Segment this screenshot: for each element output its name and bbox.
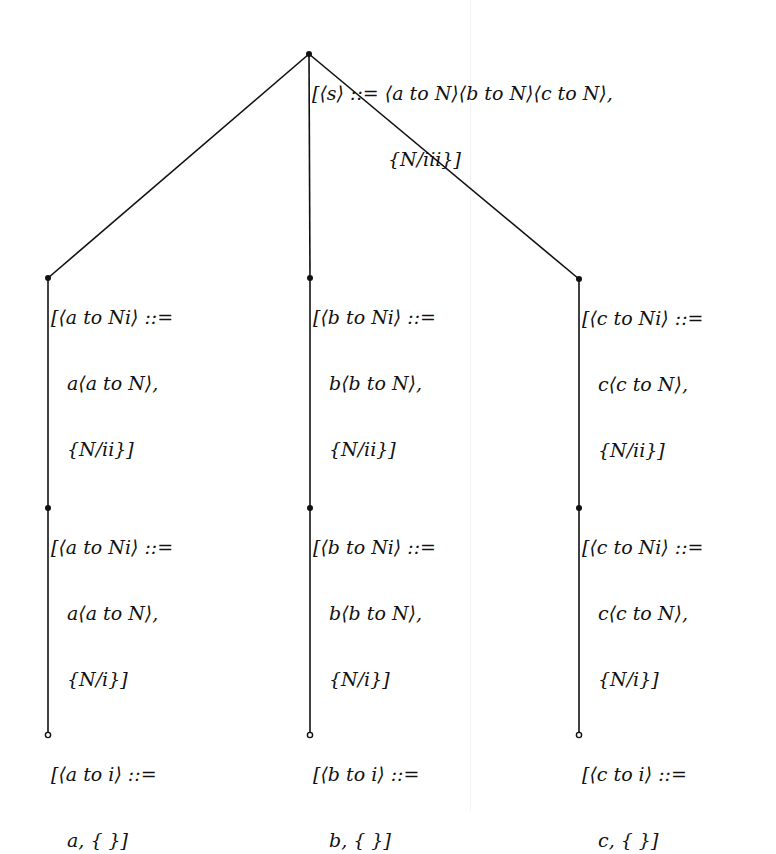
node-c-to-i-leaf: [⟨c to i⟩ ::= c, { }] bbox=[582, 719, 687, 854]
node-line: c, { }] bbox=[582, 829, 687, 851]
node-line: b⟨b to N⟩, bbox=[313, 602, 436, 624]
node-b-to-ni-ii: [⟨b to Ni⟩ ::= b⟨b to N⟩, {N/ii}] bbox=[313, 262, 436, 504]
node-line: b, { }] bbox=[313, 829, 419, 851]
node-line: {N/ii}] bbox=[313, 438, 436, 460]
node-line: a, { }] bbox=[51, 829, 157, 851]
hollow-node-dot-icon bbox=[576, 732, 581, 737]
node-c-to-ni-ii: [⟨c to Ni⟩ ::= c⟨c to N⟩, {N/ii}] bbox=[582, 263, 704, 505]
node-c-to-ni-i: [⟨c to Ni⟩ ::= c⟨c to N⟩, {N/i}] bbox=[582, 492, 704, 734]
node-b-to-i-leaf: [⟨b to i⟩ ::= b, { }] bbox=[313, 719, 419, 854]
node-line: [⟨c to Ni⟩ ::= bbox=[582, 536, 704, 558]
node-line: {N/ii}] bbox=[582, 439, 704, 461]
node-line: a⟨a to N⟩, bbox=[51, 372, 173, 394]
hollow-node-dot-icon bbox=[45, 732, 50, 737]
node-line: [⟨b to Ni⟩ ::= bbox=[313, 306, 436, 328]
tree-edge bbox=[309, 54, 310, 278]
node-line: c⟨c to N⟩, bbox=[582, 602, 704, 624]
tree-edge bbox=[48, 54, 309, 278]
hollow-node-dot-icon bbox=[307, 732, 312, 737]
node-line: {N/i}] bbox=[51, 668, 173, 690]
node-line: [⟨c to i⟩ ::= bbox=[582, 763, 687, 785]
node-line: [⟨a to Ni⟩ ::= bbox=[51, 536, 173, 558]
node-line: {N/iii}] bbox=[312, 148, 613, 170]
node-b-to-ni-i: [⟨b to Ni⟩ ::= b⟨b to N⟩, {N/i}] bbox=[313, 492, 436, 734]
node-line: a⟨a to N⟩, bbox=[51, 602, 173, 624]
node-a-to-ni-ii: [⟨a to Ni⟩ ::= a⟨a to N⟩, {N/ii}] bbox=[51, 262, 173, 504]
node-line: [⟨c to Ni⟩ ::= bbox=[582, 307, 704, 329]
node-line: {N/i}] bbox=[313, 668, 436, 690]
node-line: [⟨a to i⟩ ::= bbox=[51, 763, 157, 785]
node-line: [⟨a to Ni⟩ ::= bbox=[51, 306, 173, 328]
node-root-s-production: [⟨s⟩ ::= ⟨a to N⟩⟨b to N⟩⟨c to N⟩, {N/ii… bbox=[312, 38, 613, 214]
node-line: c⟨c to N⟩, bbox=[582, 373, 704, 395]
node-a-to-ni-i: [⟨a to Ni⟩ ::= a⟨a to N⟩, {N/i}] bbox=[51, 492, 173, 734]
node-line: b⟨b to N⟩, bbox=[313, 372, 436, 394]
node-line: [⟨b to i⟩ ::= bbox=[313, 763, 419, 785]
node-line: [⟨s⟩ ::= ⟨a to N⟩⟨b to N⟩⟨c to N⟩, bbox=[312, 82, 613, 104]
node-line: {N/ii}] bbox=[51, 438, 173, 460]
node-line: [⟨b to Ni⟩ ::= bbox=[313, 536, 436, 558]
node-a-to-i-leaf: [⟨a to i⟩ ::= a, { }] bbox=[51, 719, 157, 854]
node-line: {N/i}] bbox=[582, 668, 704, 690]
